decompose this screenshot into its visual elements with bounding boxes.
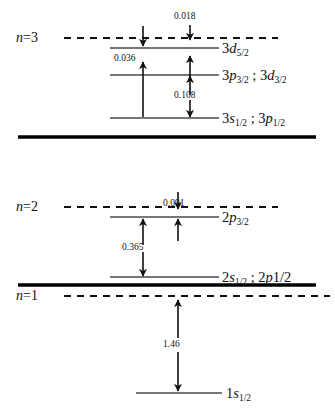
level-label-3p32-separator: ;	[249, 67, 260, 83]
level-label-2p12-l: p	[266, 269, 273, 285]
level-label-3p32-3d32: 3p3/2 ; 3d3/2	[222, 68, 287, 85]
level-label-2s12-j: 1/2	[235, 277, 247, 287]
level-label-2p32-j: 3/2	[237, 217, 249, 227]
level-label-3d32-j: 3/2	[274, 75, 286, 85]
level-label-3p32-j: 3/2	[237, 75, 249, 85]
level-label-3d52-j: 5/2	[237, 48, 249, 58]
shell-label-n3-symbol: n	[16, 30, 23, 45]
level-label-2p32: 2p3/2	[222, 210, 249, 227]
level-label-3p12-j: 1/2	[273, 118, 285, 128]
level-label-2s12-separator: ;	[247, 269, 258, 285]
level-label-3s12-j: 1/2	[235, 118, 247, 128]
level-label-3d52: 3d5/2	[222, 41, 249, 58]
shell-label-n1-equals: =	[23, 288, 31, 303]
level-label-1s12: 1s1/2	[226, 386, 251, 403]
level-label-3p32-l: p	[229, 67, 236, 83]
level-label-3s12-separator: ;	[247, 110, 258, 126]
shell-label-n3-value: 3	[31, 30, 38, 45]
splitting-value-0-091: 0.091	[163, 199, 184, 209]
splitting-value-1-46: 1.46	[163, 340, 180, 350]
shell-label-n3-equals: =	[23, 30, 31, 45]
level-label-3p12-n: 3	[258, 110, 265, 126]
splitting-value-0-036: 0.036	[114, 54, 135, 64]
level-label-3s12-3p12: 3s1/2 ; 3p1/2	[222, 111, 285, 128]
level-label-2p32-l: p	[229, 209, 236, 225]
shell-label-n3: n=3	[16, 31, 38, 45]
shell-label-n2-value: 2	[31, 199, 38, 214]
level-label-3d52-l: d	[229, 40, 236, 56]
splitting-value-0-365: 0.365	[122, 243, 143, 253]
shell-label-n1-symbol: n	[16, 288, 23, 303]
splitting-value-0-108: 0.108	[174, 91, 195, 101]
shell-label-n2: n=2	[16, 200, 38, 214]
splitting-value-0-018: 0.018	[174, 12, 195, 22]
shell-label-n1-value: 1	[31, 288, 38, 303]
level-label-1s12-j: 1/2	[239, 393, 251, 403]
shell-label-n2-equals: =	[23, 199, 31, 214]
level-label-2p12-n: 2	[258, 269, 265, 285]
level-label-2p12-j: 1/2	[273, 269, 292, 285]
level-label-3p12-l: p	[266, 110, 273, 126]
diagram-canvas	[0, 0, 335, 417]
energy-level-diagram: n=3 n=2 n=1 3d5/2 3p3/2 ; 3d3/2 3s1/2 ; …	[0, 0, 335, 417]
shell-label-n2-symbol: n	[16, 199, 23, 214]
shell-label-n1: n=1	[16, 289, 38, 303]
level-label-2s12-2p12: 2s1/2 ; 2p1/2	[222, 270, 291, 287]
